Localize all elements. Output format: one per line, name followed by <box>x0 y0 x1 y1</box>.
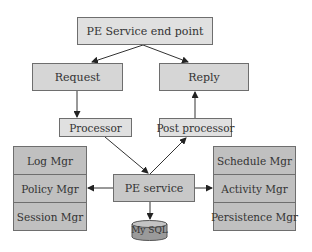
post-processor-label: Post processor <box>156 122 234 134</box>
reply-node: Reply <box>159 63 249 91</box>
processor-node: Processor <box>59 118 132 137</box>
pe-service-node: PE service <box>113 174 195 202</box>
session-mgr-cell: Session Mgr <box>14 203 86 231</box>
pe-service-label: PE service <box>125 182 184 195</box>
endpoint-node: PE Service end point <box>77 17 213 45</box>
architecture-diagram: PE Service end point Request Reply Proce… <box>0 0 312 252</box>
policy-mgr-cell: Policy Mgr <box>14 175 86 203</box>
activity-mgr-cell: Activity Mgr <box>214 175 295 203</box>
endpoint-label: PE Service end point <box>87 25 204 38</box>
post-processor-node: Post processor <box>159 118 232 137</box>
right-manager-stack: Schedule Mgr Activity Mgr Persistence Mg… <box>213 146 296 231</box>
request-node: Request <box>32 63 123 91</box>
left-manager-stack: Log Mgr Policy Mgr Session Mgr <box>13 146 87 231</box>
persistence-mgr-cell: Persistence Mgr <box>214 203 295 231</box>
schedule-mgr-cell: Schedule Mgr <box>214 147 295 175</box>
log-mgr-cell: Log Mgr <box>14 147 86 175</box>
reply-label: Reply <box>188 71 220 84</box>
request-label: Request <box>55 71 101 84</box>
mysql-label: My SQL <box>131 225 168 235</box>
mysql-database: My SQL <box>131 220 168 241</box>
processor-label: Processor <box>69 122 122 134</box>
